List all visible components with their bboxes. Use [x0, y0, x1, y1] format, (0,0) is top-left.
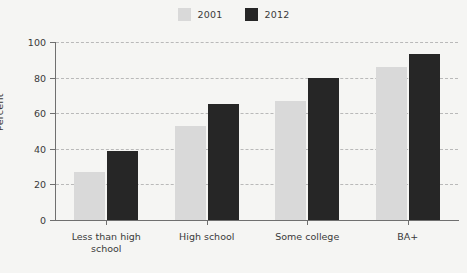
legend-swatch-2001-icon [178, 8, 191, 21]
y-tick-mark [50, 78, 55, 79]
y-tick-label: 40 [34, 143, 46, 154]
x-tick-label: Less than high school [72, 231, 141, 255]
y-tick-label: 100 [28, 37, 46, 48]
y-tick-label: 20 [34, 179, 46, 190]
gridline [56, 42, 458, 43]
x-tick-mark [408, 220, 409, 225]
x-tick-label: Some college [275, 231, 339, 243]
bar-2012-3[interactable] [409, 54, 440, 220]
x-tick-mark [207, 220, 208, 225]
x-tick-mark [106, 220, 107, 225]
chart-legend: 2001 2012 [0, 8, 467, 21]
bar-chart: 2001 2012 Percent 020406080100 Less than… [0, 0, 467, 273]
legend-item-2001[interactable]: 2001 [178, 8, 223, 21]
legend-label-2012: 2012 [265, 10, 290, 20]
y-tick-mark [50, 220, 55, 221]
y-axis-title: Percent [0, 93, 5, 131]
bar-2012-1[interactable] [208, 104, 239, 220]
y-tick-mark [50, 42, 55, 43]
bar-2001-3[interactable] [376, 67, 407, 220]
bar-2012-0[interactable] [107, 151, 138, 220]
y-tick-mark [50, 113, 55, 114]
y-tick-mark [50, 149, 55, 150]
x-tick-mark [307, 220, 308, 225]
y-tick-label: 60 [34, 108, 46, 119]
y-tick-label: 0 [40, 215, 46, 226]
legend-swatch-2012-icon [245, 8, 258, 21]
x-axis-line [55, 220, 459, 221]
y-tick-mark [50, 184, 55, 185]
x-tick-label: High school [179, 231, 234, 243]
plot-area [56, 42, 458, 220]
legend-label-2001: 2001 [198, 10, 223, 20]
bar-2012-2[interactable] [308, 78, 339, 220]
bar-2001-2[interactable] [275, 101, 306, 220]
y-tick-label: 80 [34, 72, 46, 83]
bar-2001-1[interactable] [175, 126, 206, 220]
x-tick-label: BA+ [397, 231, 418, 243]
legend-item-2012[interactable]: 2012 [245, 8, 290, 21]
bar-2001-0[interactable] [74, 172, 105, 220]
